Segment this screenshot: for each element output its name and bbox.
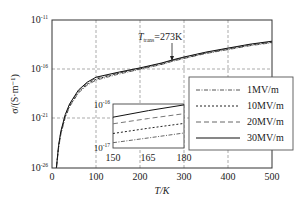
svg-text:400: 400 — [221, 171, 236, 182]
legend: 1MV/m 10MV/m 20MV/m 30MV/m — [189, 77, 293, 150]
svg-text:165: 165 — [141, 152, 156, 163]
inset-chart: 10-16 10-17 150 165 180 — [94, 99, 192, 163]
y-axis-ticks: 10-11 10-16 10-21 10-26 — [31, 14, 49, 173]
svg-text:200: 200 — [133, 171, 148, 182]
svg-text:150: 150 — [106, 152, 121, 163]
legend-item-3: 20MV/m — [247, 116, 284, 127]
legend-item-1: 1MV/m — [247, 84, 279, 95]
y-tick-3: 10-21 — [31, 112, 49, 123]
svg-text:10-16: 10-16 — [94, 99, 111, 110]
svg-text:100: 100 — [89, 171, 104, 182]
svg-text:180: 180 — [177, 152, 192, 163]
y-tick-2: 10-16 — [31, 63, 49, 74]
conductivity-chart: 10-11 10-16 10-21 10-26 0 100 200 300 40… — [0, 0, 306, 207]
svg-text:500: 500 — [265, 171, 280, 182]
legend-item-4: 30MV/m — [247, 132, 284, 143]
transition-annotation: Ttrans=273K — [138, 31, 183, 61]
y-tick-4: 10-26 — [31, 162, 49, 173]
svg-text:Ttrans=273K: Ttrans=273K — [138, 31, 183, 43]
y-tick-1: 10-11 — [31, 14, 48, 25]
y-axis-label: σ/(S·m⁻¹) — [9, 74, 21, 114]
x-axis-label: T/K — [154, 185, 170, 196]
svg-text:300: 300 — [177, 171, 192, 182]
svg-text:0: 0 — [50, 171, 55, 182]
x-axis-ticks: 0 100 200 300 400 500 — [50, 171, 280, 182]
legend-item-2: 10MV/m — [247, 100, 284, 111]
